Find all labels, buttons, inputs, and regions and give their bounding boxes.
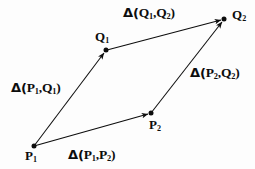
vertex-label-q2-base: Q [232,7,242,22]
edge-label-q1-q2: Δ(Q1,Q2) [123,6,175,20]
vertex-label-q1-base: Q [95,29,105,44]
edge-p1-q1 [34,53,104,146]
vertex-label-q2: Q2 [232,8,246,21]
vertex-dot-q1 [104,48,109,53]
vertex-dot-p2 [149,111,154,116]
edge-label-q1-q2-suffix: ) [170,5,174,20]
vertex-label-p2: P2 [149,118,161,131]
vertex-label-q2-sub: 2 [242,14,246,23]
edge-label-p1-p2: Δ(P1,P2) [68,148,115,162]
edge-label-p2-q2-second-base: Q [221,65,231,80]
delta-icon: Δ( [11,80,27,95]
edge-label-p2-q2-suffix: ) [235,65,239,80]
delta-icon: Δ( [190,65,206,80]
edge-label-q1-q2-first-base: Q [139,5,149,20]
delta-icon: Δ( [68,147,84,162]
edge-label-p1-q1-first-base: P [27,80,35,95]
edge-label-p1-q1-suffix: ) [56,80,60,95]
edge-label-p2-q2-first-base: P [206,65,214,80]
vertex-label-q1: Q1 [95,30,109,43]
delta-quadrilateral-diagram: P1 P2 Q1 Q2 Δ(P1,P2) Δ(P1,Q1) Δ(Q1,Q2) Δ… [0,0,255,169]
vertex-label-p1: P1 [25,149,37,162]
edge-label-p1-p2-first-base: P [84,147,92,162]
vertex-label-p1-sub: 1 [33,155,37,164]
vertex-label-p2-base: P [149,117,157,132]
delta-icon: Δ( [123,5,139,20]
edge-label-p1-p2-second-base: P [99,147,107,162]
edge-label-p1-p2-suffix: ) [111,147,115,162]
edge-label-p1-q1-second-base: Q [42,80,52,95]
vertex-label-q1-sub: 1 [105,36,109,45]
vertex-label-p1-base: P [25,148,33,163]
vertex-dot-q2 [222,17,227,22]
vertex-label-p2-sub: 2 [157,124,161,133]
edge-p1-p2 [34,114,148,146]
edge-label-p1-q1: Δ(P1,Q1) [11,81,61,95]
edge-label-q1-q2-second-base: Q [156,5,166,20]
edge-label-p2-q2: Δ(P2,Q2) [190,66,240,80]
